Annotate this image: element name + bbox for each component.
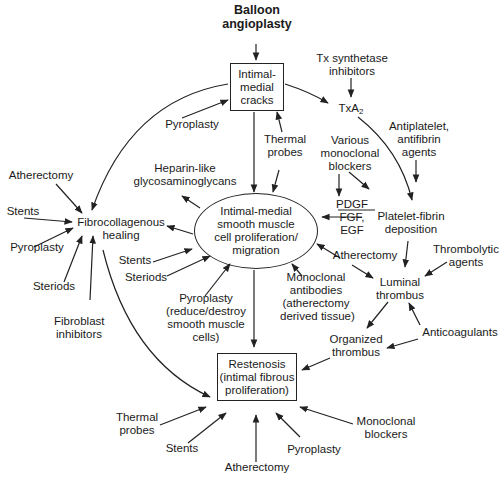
label-line: medial: [240, 81, 274, 94]
label-line: Intimal-: [238, 68, 276, 81]
label-line: deposition: [374, 223, 448, 236]
monoclonal-antibodies-label: Monoclonal antibodies (atherectomy deriv…: [280, 271, 352, 323]
label-line: Pyroplasty: [286, 443, 342, 456]
label-line: agents: [432, 256, 500, 269]
smc-proliferation-ellipse: Intimal-medial smooth muscle cell prolif…: [194, 193, 318, 269]
label-line: migration: [232, 244, 279, 257]
label-line: cells): [165, 331, 247, 344]
label-line: Various: [318, 134, 382, 147]
label-line: Luminal: [372, 276, 428, 289]
intimal-medial-cracks-box: Intimal- medial cracks: [230, 63, 284, 111]
stents-mid-label: Stents: [118, 254, 152, 267]
label-line: (reduce/destroy: [165, 305, 247, 318]
label-line: Atherectomy: [332, 249, 398, 262]
label-line: Balloon: [219, 3, 295, 17]
label-line: Antiplatelet,: [386, 120, 452, 133]
label-line: inhibitors: [312, 65, 392, 78]
label-line: Stents: [118, 254, 152, 267]
pyroplasty-bottom-label: Pyroplasty: [286, 443, 342, 456]
label-line: Tx synthetase: [312, 52, 392, 65]
label-line: (intimal fibrous: [220, 371, 295, 384]
label-line: thrombus: [372, 289, 428, 302]
label-line: probes: [262, 146, 308, 159]
tx-synthetase-inhibitors-label: Tx synthetase inhibitors: [312, 52, 392, 78]
steriods-left-label: Steriods: [32, 280, 76, 293]
various-monoclonal-blockers-label: Various monoclonal blockers: [318, 134, 382, 173]
label-line: FGF,: [332, 211, 372, 224]
label-line: Steriods: [124, 271, 168, 284]
label-line: Steriods: [32, 280, 76, 293]
label-line: Atherectomy: [224, 461, 290, 474]
heparin-label: Heparin-like glycosaminoglycans: [130, 162, 240, 188]
label-line: smooth muscle: [165, 318, 247, 331]
restenosis-box: Restenosis (intimal fibrous proliferatio…: [217, 353, 297, 401]
label-line: smooth muscle: [217, 218, 294, 231]
label-line: Thermal: [114, 411, 160, 424]
label-line: thrombus: [326, 346, 386, 359]
steriods-mid-label: Steriods: [124, 271, 168, 284]
label-line: Intimal-medial: [220, 205, 292, 218]
label-line: healing: [76, 229, 166, 242]
label-line: antifibrin: [386, 133, 452, 146]
thermal-probes-top-label: Thermal probes: [262, 133, 308, 159]
label-line: proliferation): [225, 384, 289, 397]
atherectomy-left-label: Atherectomy: [8, 169, 74, 182]
thermal-probes-bottom-label: Thermal probes: [114, 411, 160, 437]
label-line: (atherectomy: [280, 297, 352, 310]
label-line: agents: [386, 146, 452, 159]
thrombolytic-agents-label: Thrombolytic agents: [432, 243, 500, 269]
label-line: Pyroplasty: [9, 241, 65, 254]
antiplatelet-label: Antiplatelet, antifibrin agents: [386, 120, 452, 159]
label-text: TxA: [339, 102, 359, 114]
pyroplasty-top-label: Pyroplasty: [160, 118, 224, 131]
label-line: PDGF: [332, 198, 372, 211]
label-line: Thrombolytic: [432, 243, 500, 256]
label-line: blockers: [318, 160, 382, 173]
label-line: Heparin-like: [130, 162, 240, 175]
label-line: Monoclonal: [355, 415, 417, 428]
label-line: derived tissue): [280, 310, 352, 323]
txa2-label: TxA2: [334, 102, 368, 118]
label-line: cracks: [240, 94, 273, 107]
label-line: inhibitors: [54, 328, 104, 341]
atherectomy-bottom-label: Atherectomy: [224, 461, 290, 474]
growth-factors-label: PDGF FGF, EGF: [332, 198, 372, 237]
pyroplasty-left-label: Pyroplasty: [9, 241, 65, 254]
label-line: blockers: [355, 428, 417, 441]
fibroblast-inhibitors-label: Fibroblast inhibitors: [54, 315, 104, 341]
label-line: EGF: [332, 224, 372, 237]
label-line: cell proliferation/: [214, 231, 298, 244]
label-line: Monoclonal: [280, 271, 352, 284]
label-line: Thermal: [262, 133, 308, 146]
label-line: probes: [114, 424, 160, 437]
label-line: Restenosis: [229, 358, 286, 371]
fibrocollagenous-healing-label: Fibrocollagenous healing: [76, 216, 166, 242]
label-line: Pyroplasty: [160, 118, 224, 131]
stents-bottom-label: Stents: [165, 442, 199, 455]
balloon-angioplasty-label: Balloon angioplasty: [219, 3, 295, 31]
label-line: Fibrocollagenous: [76, 216, 166, 229]
organized-thrombus-label: Organized thrombus: [326, 333, 386, 359]
label-line: Platelet-fibrin: [374, 210, 448, 223]
label-line: Anticoagulants: [420, 326, 500, 339]
label-line: Pyroplasty: [165, 292, 247, 305]
label-line: monoclonal: [318, 147, 382, 160]
label-line: Stents: [165, 442, 199, 455]
monoclonal-blockers-bottom-label: Monoclonal blockers: [355, 415, 417, 441]
label-line: Stents: [6, 205, 40, 218]
anticoagulants-label: Anticoagulants: [420, 326, 500, 339]
pyroplasty-mid-label: Pyroplasty (reduce/destroy smooth muscle…: [165, 292, 247, 344]
platelet-fibrin-label: Platelet-fibrin deposition: [374, 210, 448, 236]
label-line: Fibroblast: [54, 315, 104, 328]
label-line: angioplasty: [219, 17, 295, 31]
label-line: glycosaminoglycans: [130, 175, 240, 188]
label-line: Atherectomy: [8, 169, 74, 182]
label-line: Organized: [326, 333, 386, 346]
luminal-thrombus-label: Luminal thrombus: [372, 276, 428, 302]
subscript: 2: [359, 107, 363, 116]
label-line: antibodies: [280, 284, 352, 297]
atherectomy-mid-label: Atherectomy: [332, 249, 398, 262]
stents-left-label: Stents: [6, 205, 40, 218]
